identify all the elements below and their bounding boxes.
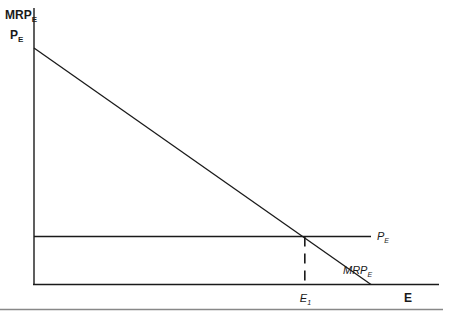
x-axis-label: E — [404, 291, 412, 305]
y-axis-label-pe: PE — [10, 28, 24, 44]
price-line-label: PE — [377, 230, 389, 244]
chart: MRPE PE E PE MRPE E1 — [0, 0, 449, 317]
mrp-curve-label: MRPE — [343, 264, 372, 278]
y-axis-label-mrp: MRPE — [5, 8, 38, 24]
equilibrium-label: E1 — [300, 292, 311, 306]
mrp-curve — [34, 48, 371, 285]
